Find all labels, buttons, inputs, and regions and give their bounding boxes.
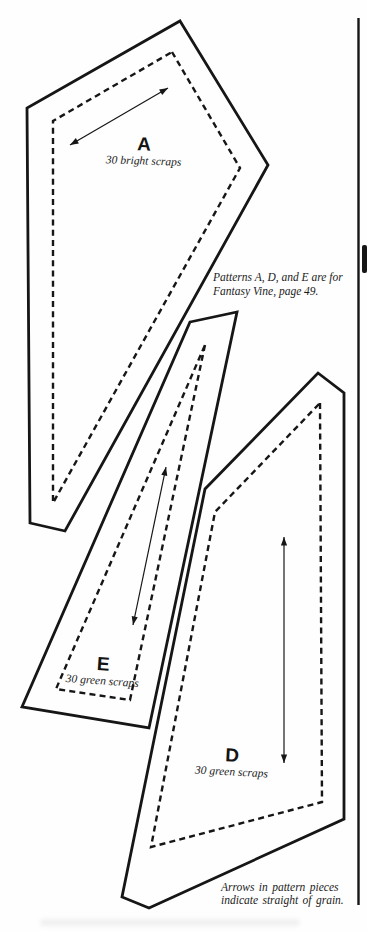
grain-explanation-note: Arrows in pattern pieces indicate straig… bbox=[221, 881, 344, 906]
piece-a-caption: 30 bright scraps bbox=[105, 153, 181, 169]
patterns-reference-note: Patterns A, D, and E are for Fantasy Vin… bbox=[213, 270, 343, 298]
pattern-book-page: A 30 bright scraps E 30 green scraps D 3… bbox=[0, 0, 367, 932]
patterns-note-line2: Fantasy Vine, page 49. bbox=[213, 284, 343, 298]
piece-e-seam-dashed-line bbox=[56, 345, 205, 700]
piece-e-grain-arrow bbox=[133, 467, 166, 625]
piece-a-grain-arrowhead bbox=[70, 138, 79, 145]
piece-d-label-group: D 30 green scraps bbox=[195, 743, 270, 780]
piece-d-grain-arrowhead bbox=[281, 537, 287, 546]
piece-a-grain-arrowhead bbox=[159, 88, 168, 95]
page-edge-tab-mark bbox=[362, 245, 367, 273]
piece-d-letter: D bbox=[195, 743, 269, 766]
grain-note-line2: indicate straight of grain. bbox=[221, 894, 344, 907]
piece-a-letter: A bbox=[106, 133, 182, 155]
piece-e-grain-arrowhead bbox=[132, 616, 138, 625]
piece-e-grain-arrowhead bbox=[161, 467, 167, 476]
pattern-pieces-drawing bbox=[0, 0, 367, 932]
scan-artifact bbox=[40, 919, 300, 926]
grain-note-line1: Arrows in pattern pieces bbox=[221, 881, 344, 894]
patterns-note-line1: Patterns A, D, and E are for bbox=[213, 270, 343, 284]
piece-a-label-group: A 30 bright scraps bbox=[105, 133, 182, 169]
piece-e-label-group: E 30 green scraps bbox=[65, 651, 140, 689]
piece-d-grain-arrowhead bbox=[281, 755, 287, 764]
